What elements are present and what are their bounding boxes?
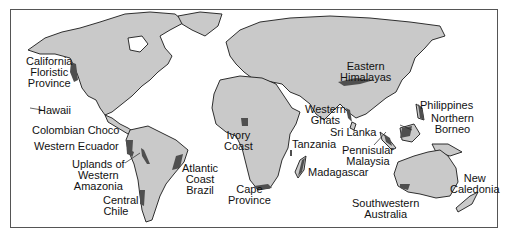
label-line: Australia bbox=[352, 209, 419, 220]
label-line: Ghats bbox=[305, 115, 346, 126]
australia-landmass bbox=[394, 150, 458, 198]
new-zealand-landmass bbox=[456, 192, 478, 212]
label-atlantic-coast-brazil: Atlantic Coast Brazil bbox=[182, 163, 218, 196]
label-western-ghats: Western Ghats bbox=[305, 104, 346, 126]
greenland-landmass bbox=[178, 12, 222, 36]
label-line: Coast bbox=[224, 141, 253, 152]
label-madagascar: Madagascar bbox=[308, 167, 369, 178]
label-ivory-coast: Ivory Coast bbox=[224, 130, 253, 152]
label-central-chile: Central Chile bbox=[103, 195, 138, 217]
label-cape-province: Cape Province bbox=[228, 184, 271, 206]
label-line: Province bbox=[228, 195, 271, 206]
label-line: Caledonia bbox=[450, 184, 500, 195]
label-line: Borneo bbox=[431, 124, 474, 135]
label-northern-borneo: Northern Borneo bbox=[431, 113, 474, 135]
label-line: Chile bbox=[103, 206, 138, 217]
label-line: Malaysia bbox=[342, 156, 394, 167]
label-hawaii: Hawaii bbox=[38, 105, 71, 116]
label-southwestern-australia: Southwestern Australia bbox=[352, 198, 419, 220]
label-line: Amazonia bbox=[72, 181, 125, 192]
label-western-ecuador: Western Ecuador bbox=[34, 141, 119, 152]
label-line: Himalayas bbox=[340, 72, 391, 83]
label-line: Province bbox=[26, 78, 72, 89]
label-new-caledonia: New Caledonia bbox=[450, 173, 500, 195]
label-tanzania: Tanzania bbox=[292, 139, 336, 150]
label-california: California Floristic Province bbox=[26, 56, 72, 89]
label-sri-lanka: Sri Lanka bbox=[330, 127, 376, 138]
label-colombian-choco: Colombian Choco bbox=[32, 125, 119, 136]
hotspot-ivory-coast bbox=[241, 118, 248, 126]
label-eastern-himalayas: Eastern Himalayas bbox=[340, 61, 391, 83]
label-philippines: Philippines bbox=[420, 100, 473, 111]
label-pennisular-malaysia: Pennisular Malaysia bbox=[342, 145, 394, 167]
hotspot-tanzania bbox=[290, 150, 292, 156]
label-uplands-western-amazonia: Uplands of Western Amazonia bbox=[72, 159, 125, 192]
label-line: Brazil bbox=[182, 185, 218, 196]
